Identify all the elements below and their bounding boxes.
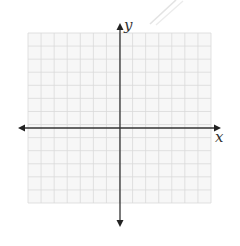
arrow-left-icon [18, 125, 25, 132]
arrow-down-icon [117, 220, 124, 227]
faint-pencil-strokes [150, 0, 183, 25]
coordinate-plane: x y [0, 0, 240, 246]
y-axis-label: y [123, 16, 133, 34]
x-axis-label: x [215, 128, 224, 146]
arrow-up-icon [117, 23, 124, 30]
